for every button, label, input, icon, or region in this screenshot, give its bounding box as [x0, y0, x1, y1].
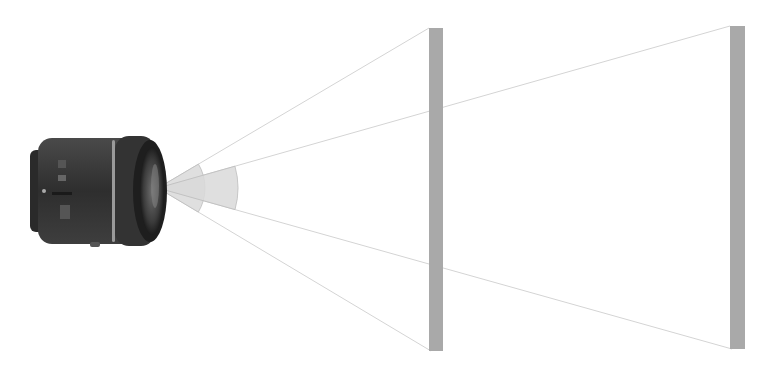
field-of-view-diagram — [0, 0, 778, 368]
ray-narrow-top — [158, 26, 730, 188]
light-rays — [158, 26, 732, 351]
far-screen — [730, 26, 745, 349]
near-screen — [429, 28, 443, 351]
ray-wide-bottom — [158, 188, 431, 351]
projection-screens — [429, 26, 745, 351]
camera-lens-icon — [30, 136, 167, 247]
ray-narrow-bottom — [158, 188, 732, 349]
angle-wedges — [158, 164, 238, 212]
